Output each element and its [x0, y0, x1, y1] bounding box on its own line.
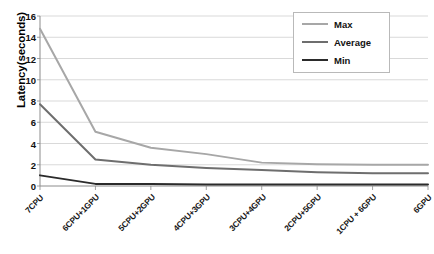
- x-axis-tick-label: 4CPU+3GPU: [171, 192, 212, 233]
- x-axis-tick-label: 3CPU+4GPU: [227, 192, 268, 233]
- legend-item-average[interactable]: Average: [294, 33, 389, 51]
- legend-swatch-icon: [302, 23, 328, 25]
- x-axis-tick-label: 6CPU+1GPU: [60, 192, 101, 233]
- x-axis-tick-label: 7CPU: [23, 192, 45, 214]
- chart-legend: MaxAverageMin: [293, 12, 390, 73]
- legend-item-label: Max: [334, 19, 352, 30]
- legend-item-max[interactable]: Max: [294, 15, 389, 33]
- x-axis-tick-label: 5CPU+2GPU: [116, 192, 157, 233]
- legend-item-label: Average: [334, 37, 371, 48]
- x-axis-tick-label: 2CPU+5GPU: [282, 192, 323, 233]
- legend-item-min[interactable]: Min: [294, 51, 389, 69]
- legend-swatch-icon: [302, 59, 328, 61]
- legend-swatch-icon: [302, 41, 328, 43]
- x-axis-tick-label: 6GPU: [411, 192, 434, 215]
- x-axis-tick-label: 1CPU + 6GPU: [334, 192, 378, 236]
- legend-item-label: Min: [334, 55, 350, 66]
- latency-line-chart: Latency(seconds) 0246810121416 7CPU6CPU+…: [0, 0, 434, 254]
